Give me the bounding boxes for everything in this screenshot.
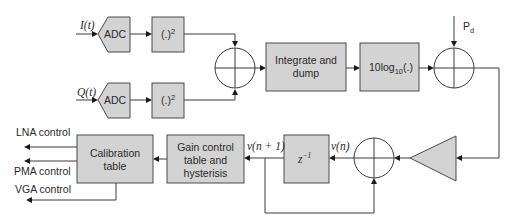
gain-label-line3: hysterisis bbox=[184, 167, 228, 179]
arrow-icon bbox=[456, 155, 462, 161]
arrow-icon bbox=[354, 65, 360, 71]
calibration-block bbox=[77, 135, 153, 183]
vga-control-label: VGA control bbox=[15, 183, 71, 195]
arrow-icon bbox=[146, 97, 152, 103]
arrow-icon bbox=[232, 41, 238, 47]
lna-control-label: LNA control bbox=[16, 126, 70, 138]
gain-triangle bbox=[410, 136, 456, 181]
pma-control-label: PMA control bbox=[14, 165, 71, 177]
gain-label-line2: table and bbox=[184, 154, 227, 166]
wire bbox=[184, 94, 235, 100]
arrow-icon bbox=[232, 89, 238, 95]
arrow-icon bbox=[394, 155, 400, 161]
arrow-icon bbox=[24, 158, 30, 164]
arrow-icon bbox=[26, 197, 32, 203]
integrate-label-line2: dump bbox=[293, 67, 319, 79]
wire bbox=[184, 34, 235, 42]
summing-junction-1 bbox=[215, 48, 255, 88]
summing-junction-2 bbox=[434, 48, 474, 88]
arrow-icon bbox=[451, 41, 457, 47]
integrate-label-line1: Integrate and bbox=[275, 54, 337, 66]
arrow-icon bbox=[260, 65, 266, 71]
i-input-label: I(t) bbox=[79, 19, 95, 32]
pd-label: Pd bbox=[463, 20, 474, 35]
arrow-icon bbox=[24, 144, 30, 150]
calib-label-line1: Calibration bbox=[90, 147, 140, 159]
adc-i-label: ADC bbox=[104, 28, 127, 40]
v-n1-label: v(n + 1) bbox=[247, 140, 285, 153]
adc-q-label: ADC bbox=[104, 94, 127, 106]
arrow-icon bbox=[92, 31, 98, 37]
wire bbox=[462, 68, 499, 158]
gain-label-line1: Gain control bbox=[177, 141, 234, 153]
arrow-icon bbox=[153, 156, 159, 162]
calib-label-line2: table bbox=[104, 160, 127, 172]
agc-block-diagram: I(t) ADC (.)2 Q(t) ADC (.)2 Integrate an… bbox=[0, 0, 512, 223]
arrow-icon bbox=[371, 178, 377, 184]
q-input-label: Q(t) bbox=[77, 86, 96, 99]
arrow-icon bbox=[329, 155, 335, 161]
arrow-icon bbox=[244, 155, 250, 161]
arrow-icon bbox=[428, 65, 434, 71]
summing-junction-3 bbox=[354, 138, 394, 178]
arrow-icon bbox=[146, 31, 152, 37]
v-n-label: v(n) bbox=[331, 140, 350, 153]
